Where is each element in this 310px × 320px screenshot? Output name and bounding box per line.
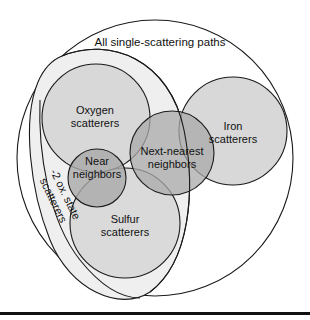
- near-label-2: neighbors: [73, 168, 122, 180]
- sulfur-label-1: Sulfur: [111, 213, 140, 225]
- iron-label-2: scatterers: [209, 133, 258, 145]
- next-nearest-label-1: Next-nearest: [141, 145, 204, 157]
- venn-diagram: All single-scattering paths Oxygen scatt…: [0, 0, 310, 320]
- sulfur-label-2: scatterers: [101, 226, 150, 238]
- title-label: All single-scattering paths: [94, 36, 225, 48]
- next-nearest-label-2: neighbors: [148, 158, 197, 170]
- oxygen-label-1: Oxygen: [76, 104, 114, 116]
- near-label-1: Near: [85, 155, 109, 167]
- baseline-rule: [0, 312, 310, 315]
- oxygen-label-2: scatterers: [71, 117, 120, 129]
- iron-label-1: Iron: [224, 120, 243, 132]
